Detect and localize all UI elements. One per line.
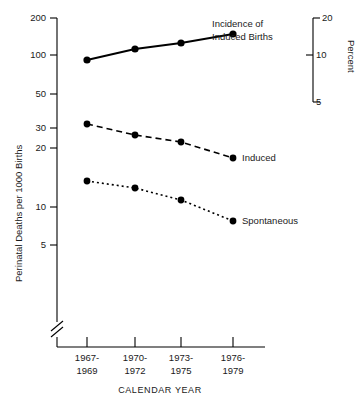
data-point-spontaneous-2 (132, 185, 139, 192)
series-spontaneous: Spontaneous (84, 178, 299, 226)
axis-break-marks (51, 321, 63, 337)
left-axis-title: Perinatal Deaths per 1000 Births (13, 144, 24, 282)
x-tick-label-1-line1: 1967- (75, 352, 99, 363)
series-label-induced: Induced (242, 152, 276, 163)
x-tick-label-2-line1: 1970- (123, 352, 147, 363)
left-tick-label-50: 50 (35, 88, 46, 99)
data-point-induced-3 (178, 139, 185, 146)
data-point-spontaneous-3 (178, 197, 185, 204)
chart-canvas: 200 100 50 30 20 10 5 Perinatal Deaths p… (0, 0, 362, 401)
x-tick-label-2-line2: 1972 (124, 365, 145, 376)
series-incidence-of-induced-births: Incidence of Induced Births (83, 18, 273, 64)
data-point-spontaneous-4 (230, 218, 237, 225)
left-tick-label-200: 200 (30, 12, 46, 23)
series-line-spontaneous (87, 181, 233, 221)
chart-figure: 200 100 50 30 20 10 5 Perinatal Deaths p… (0, 0, 362, 401)
series-induced: Induced (84, 121, 276, 163)
left-axis-ticks (50, 18, 57, 245)
right-tick-label-5: 5 (316, 96, 321, 107)
data-point-incidence-2 (131, 45, 138, 52)
data-point-incidence-3 (177, 39, 184, 46)
left-tick-label-30: 30 (35, 122, 46, 133)
x-axis: 1967- 1969 1970- 1972 1973- 1975 1976- 1… (57, 337, 265, 395)
series-label-incidence-line2: Induced Births (212, 31, 273, 42)
series-label-incidence-line1: Incidence of (212, 18, 264, 29)
right-tick-label-20: 20 (322, 12, 333, 23)
left-tick-label-5: 5 (41, 239, 46, 250)
left-tick-label-20: 20 (35, 142, 46, 153)
x-tick-label-1-line2: 1969 (76, 365, 97, 376)
data-point-induced-4 (230, 155, 237, 162)
axis-break-slash-2 (51, 327, 63, 337)
x-tick-label-4-line2: 1979 (222, 365, 243, 376)
left-y-axis: 200 100 50 30 20 10 5 Perinatal Deaths p… (13, 12, 63, 347)
x-axis-title: CALENDAR YEAR (118, 385, 202, 395)
left-tick-label-100: 100 (30, 49, 46, 60)
right-axis-title: Percent (346, 40, 357, 73)
left-tick-label-10: 10 (35, 201, 46, 212)
data-point-induced-1 (84, 121, 91, 128)
data-point-incidence-1 (83, 56, 90, 63)
right-tick-label-10: 10 (316, 49, 327, 60)
x-tick-label-3-line2: 1975 (170, 365, 191, 376)
data-point-induced-2 (132, 132, 139, 139)
data-point-spontaneous-1 (84, 178, 91, 185)
x-tick-label-3-line1: 1973- (169, 352, 193, 363)
series-line-induced (87, 124, 233, 158)
right-y-axis: 20 10 5 Percent (306, 12, 357, 107)
x-tick-label-4-line1: 1976- (221, 352, 245, 363)
axis-break-slash-1 (51, 321, 63, 331)
series-label-spontaneous: Spontaneous (242, 215, 298, 226)
